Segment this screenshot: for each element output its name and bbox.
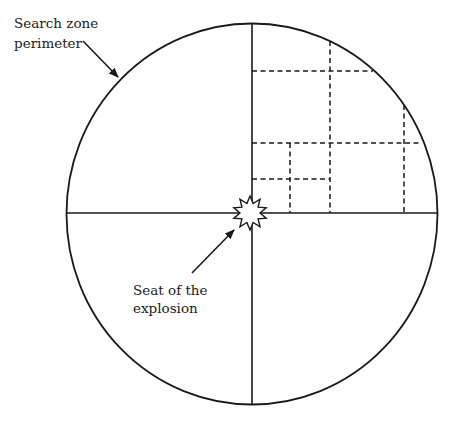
- perimeter-pointer-arrow: [83, 41, 118, 77]
- perimeter-label-line1: Search zone: [14, 15, 98, 31]
- explosion-label-line2: explosion: [133, 300, 198, 316]
- perimeter-label-line2: perimeter: [14, 35, 83, 51]
- explosion-pointer-arrow: [192, 230, 234, 273]
- explosion-label-line1: Seat of the: [133, 282, 208, 298]
- search-zone-diagram: Search zone perimeter Seat of the explos…: [0, 0, 454, 424]
- search-grid-dashed-lines: [252, 41, 422, 213]
